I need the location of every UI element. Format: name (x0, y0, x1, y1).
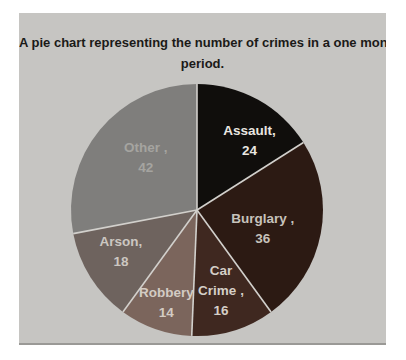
chart-panel: A pie chart representing the number of c… (19, 13, 386, 345)
pie-slice-other (71, 84, 197, 234)
pie-chart: Assault,24Burglary ,36CarCrime ,16Robber… (19, 13, 386, 343)
